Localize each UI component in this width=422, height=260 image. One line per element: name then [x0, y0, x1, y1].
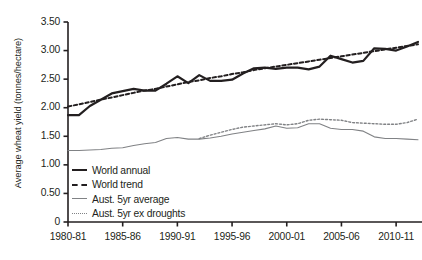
legend-label: Aust. 5yr ex droughts — [92, 208, 185, 219]
legend-swatch-dotted-icon — [72, 209, 87, 219]
chart-legend: World annualWorld trendAust. 5yr average… — [72, 163, 185, 221]
wheat-yield-line-chart: Average wheat yield (tonnes/hectare) 00.… — [0, 0, 422, 260]
legend-item: World annual — [72, 163, 185, 178]
legend-label: World annual — [92, 165, 150, 176]
series-line — [199, 119, 418, 138]
plot-area — [0, 0, 422, 260]
legend-item: Aust. 5yr ex droughts — [72, 207, 185, 222]
legend-swatch-solid-icon — [72, 194, 87, 204]
legend-swatch-solid-icon — [72, 165, 87, 175]
legend-swatch-dashed-icon — [72, 180, 87, 190]
series-line — [68, 44, 418, 106]
legend-label: Aust. 5yr average — [92, 194, 169, 205]
legend-item: Aust. 5yr average — [72, 192, 185, 207]
legend-item: World trend — [72, 178, 185, 193]
legend-label: World trend — [92, 179, 143, 190]
